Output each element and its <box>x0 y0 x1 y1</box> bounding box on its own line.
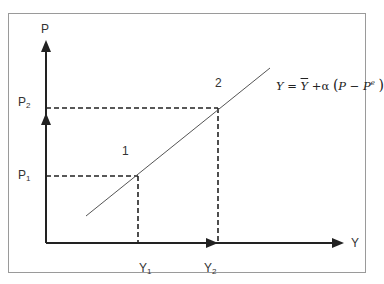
point-1-label: 1 <box>122 145 129 157</box>
supply-equation: Y = Y +α (P − Pe ) <box>276 77 384 93</box>
equation-minus: − <box>350 79 360 93</box>
vertical-axis-mid-arrow-icon <box>41 113 51 125</box>
p2-label: P2 <box>18 96 30 110</box>
supply-curve <box>86 68 270 216</box>
equation-ybar: Y <box>301 79 309 93</box>
equation-lhs: Y <box>276 79 284 93</box>
y2-label: Y2 <box>204 262 216 276</box>
horizontal-axis-label: Y <box>351 237 359 249</box>
equation-close-paren: ) <box>379 77 384 93</box>
horizontal-axis-arrow-icon <box>332 238 344 248</box>
vertical-axis-arrow-icon <box>41 40 51 52</box>
equation-plus: + <box>312 79 322 93</box>
y1-label: Y1 <box>139 262 151 276</box>
vertical-axis-label: P <box>41 23 49 35</box>
p1-label: P1 <box>18 169 30 183</box>
point-2-label: 2 <box>215 77 222 89</box>
diagram-canvas <box>0 0 384 284</box>
equation-p: P <box>338 79 346 93</box>
horizontal-axis-mid-arrow-icon <box>206 238 218 248</box>
equation-alpha: α <box>321 79 329 93</box>
equation-pe: P <box>363 79 371 93</box>
equation-equals: = <box>287 79 297 93</box>
equation-pe-superscript: e <box>371 79 375 87</box>
guide-lines <box>46 108 218 243</box>
